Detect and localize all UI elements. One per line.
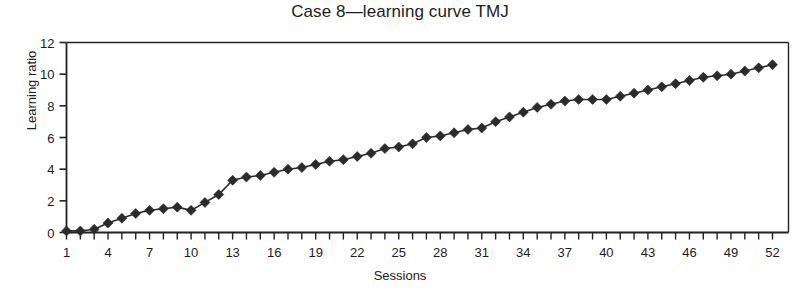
data-point-marker (477, 123, 487, 133)
data-point-marker (131, 209, 141, 219)
data-point-marker (740, 66, 750, 76)
y-axis-ticks: 024681012 (40, 36, 66, 241)
x-tick-label: 22 (350, 245, 364, 260)
data-point-marker (574, 95, 584, 105)
data-point-marker (283, 164, 293, 174)
x-tick-label: 37 (558, 245, 572, 260)
data-point-marker (684, 76, 694, 86)
data-point-marker (546, 99, 556, 109)
data-point-marker (366, 148, 376, 158)
data-point-marker (671, 79, 681, 89)
data-point-marker (435, 131, 445, 141)
data-point-marker (615, 91, 625, 101)
data-point-marker (657, 82, 667, 92)
data-series-learning-ratio (62, 60, 778, 236)
y-tick-label: 4 (47, 162, 54, 177)
y-tick-label: 12 (40, 36, 54, 51)
data-point-marker (297, 163, 307, 173)
x-axis-ticks: 147101316192225283134374043464952 (63, 233, 780, 260)
data-point-marker (394, 142, 404, 152)
data-point-marker (754, 63, 764, 73)
data-point-marker (518, 107, 528, 117)
y-tick-label: 10 (40, 67, 54, 82)
data-point-marker (338, 155, 348, 165)
y-tick-label: 6 (47, 131, 54, 146)
data-point-marker (352, 152, 362, 162)
x-tick-label: 43 (641, 245, 655, 260)
data-point-marker (380, 144, 390, 154)
data-point-marker (698, 72, 708, 82)
data-point-marker (601, 95, 611, 105)
x-tick-label: 25 (392, 245, 406, 260)
data-point-marker (145, 205, 155, 215)
data-point-marker (726, 69, 736, 79)
data-point-marker (325, 156, 335, 166)
x-tick-label: 40 (599, 245, 613, 260)
data-point-marker (311, 159, 321, 169)
x-tick-label: 1 (63, 245, 70, 260)
data-point-marker (103, 218, 113, 228)
y-tick-label: 2 (47, 194, 54, 209)
x-tick-label: 28 (433, 245, 447, 260)
chart-figure: Case 8—learning curve TMJ Learning ratio… (0, 0, 800, 297)
data-point-marker (200, 197, 210, 207)
x-tick-label: 19 (308, 245, 322, 260)
y-tick-label: 0 (47, 226, 54, 241)
data-point-marker (255, 171, 265, 181)
data-point-marker (421, 133, 431, 143)
x-tick-label: 52 (765, 245, 779, 260)
data-point-marker (117, 213, 127, 223)
x-tick-label: 4 (104, 245, 111, 260)
data-point-marker (463, 125, 473, 135)
data-point-marker (62, 226, 72, 236)
data-point-marker (186, 205, 196, 215)
data-point-marker (172, 202, 182, 212)
data-point-marker (629, 88, 639, 98)
data-point-marker (532, 102, 542, 112)
plot-area: 024681012 147101316192225283134374043464… (0, 0, 800, 297)
data-point-marker (560, 96, 570, 106)
x-tick-label: 46 (682, 245, 696, 260)
data-point-marker (269, 167, 279, 177)
x-tick-label: 16 (267, 245, 281, 260)
data-point-marker (643, 85, 653, 95)
data-point-marker (408, 139, 418, 149)
data-point-marker (75, 226, 85, 236)
data-point-marker (491, 117, 501, 127)
data-point-marker (158, 204, 168, 214)
x-tick-label: 31 (475, 245, 489, 260)
data-point-marker (449, 128, 459, 138)
x-tick-label: 49 (724, 245, 738, 260)
x-tick-label: 13 (225, 245, 239, 260)
data-point-marker (588, 95, 598, 105)
data-point-marker (712, 71, 722, 81)
data-point-marker (504, 112, 514, 122)
y-tick-label: 8 (47, 99, 54, 114)
data-point-marker (241, 172, 251, 182)
x-tick-label: 34 (516, 245, 530, 260)
x-tick-label: 7 (146, 245, 153, 260)
series-line (67, 65, 773, 231)
data-point-marker (768, 60, 778, 70)
x-tick-label: 10 (184, 245, 198, 260)
